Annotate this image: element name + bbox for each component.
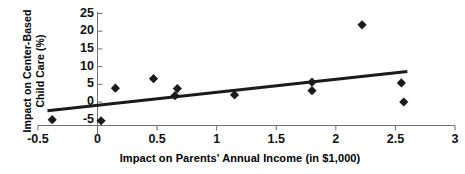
- y-tick-label: 20: [62, 24, 94, 37]
- y-axis-title-line-1: Impact on Center-Based: [21, 10, 34, 133]
- x-axis-ticks: [38, 126, 455, 131]
- data-point-marker: [307, 78, 316, 87]
- data-point-marker: [307, 86, 316, 95]
- data-point-marker: [173, 84, 182, 93]
- x-tick-label: 2: [311, 133, 361, 146]
- y-tick-label: 10: [62, 60, 94, 73]
- x-tick-label: 0: [73, 133, 123, 146]
- data-point-marker: [357, 20, 366, 29]
- x-axis-title: Impact on Parents' Annual Income (in $1,…: [60, 152, 420, 164]
- data-point-group: [48, 20, 409, 125]
- data-point-marker: [149, 74, 158, 83]
- y-axis-ticks: [98, 14, 103, 103]
- y-axis-title: Impact on Center-Based Child Care (%): [14, 4, 54, 138]
- y-tick-label: 25: [62, 7, 94, 20]
- x-tick-label: 1: [192, 133, 242, 146]
- data-point-marker: [111, 84, 120, 93]
- x-tick-label: 2.5: [370, 133, 420, 146]
- data-point-marker: [170, 91, 179, 100]
- y-tick-label: 15: [62, 42, 94, 55]
- y-tick-label: -5: [62, 113, 94, 126]
- data-point-marker: [399, 97, 408, 106]
- x-tick-label: 3: [430, 133, 465, 146]
- scatter-chart: -50510152025 -0.500.511.522.53 Impact on…: [0, 0, 465, 174]
- y-tick-label: 5: [62, 77, 94, 90]
- data-point-marker: [397, 78, 406, 87]
- x-tick-label: 0.5: [132, 133, 182, 146]
- x-tick-label: 1.5: [251, 133, 301, 146]
- y-tick-label: 0: [62, 95, 94, 108]
- y-axis-title-line-2: Child Care (%): [34, 34, 47, 107]
- trend-line: [47, 72, 407, 111]
